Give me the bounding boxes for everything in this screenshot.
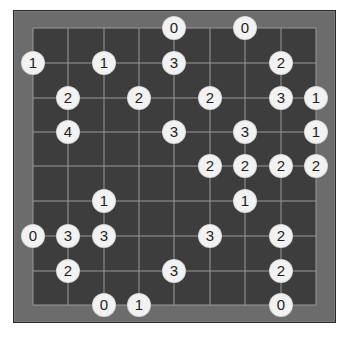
island-node[interactable]: 1 [305, 121, 327, 143]
island-node[interactable]: 3 [163, 260, 185, 282]
island-node[interactable]: 1 [128, 294, 150, 316]
island-node[interactable]: 3 [163, 121, 185, 143]
island-node[interactable]: 2 [270, 260, 292, 282]
island-node[interactable]: 0 [22, 225, 44, 247]
island-node[interactable]: 2 [305, 155, 327, 177]
island-node[interactable]: 1 [93, 52, 115, 74]
island-node[interactable]: 0 [93, 294, 115, 316]
island-node[interactable]: 2 [199, 155, 221, 177]
island-node[interactable]: 1 [234, 190, 256, 212]
island-node[interactable]: 0 [163, 17, 185, 39]
island-node[interactable]: 1 [22, 52, 44, 74]
island-node[interactable]: 3 [163, 52, 185, 74]
island-node[interactable]: 4 [57, 121, 79, 143]
island-node[interactable]: 1 [93, 190, 115, 212]
island-node[interactable]: 2 [57, 260, 79, 282]
island-node[interactable]: 0 [234, 17, 256, 39]
island-node[interactable]: 3 [199, 225, 221, 247]
island-node[interactable]: 2 [199, 87, 221, 109]
island-node[interactable]: 2 [270, 155, 292, 177]
island-node[interactable]: 2 [234, 155, 256, 177]
island-node[interactable]: 2 [270, 52, 292, 74]
island-node[interactable]: 3 [234, 121, 256, 143]
island-node[interactable]: 3 [270, 87, 292, 109]
island-node[interactable]: 0 [270, 294, 292, 316]
island-node[interactable]: 3 [93, 225, 115, 247]
island-node[interactable]: 1 [305, 87, 327, 109]
island-node[interactable]: 3 [57, 225, 79, 247]
island-node[interactable]: 2 [270, 225, 292, 247]
island-node[interactable]: 2 [57, 87, 79, 109]
island-node[interactable]: 2 [128, 87, 150, 109]
